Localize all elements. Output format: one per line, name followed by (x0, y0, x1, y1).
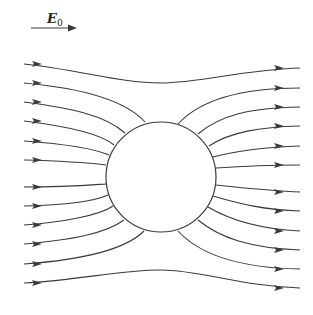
arrowhead-icon (32, 138, 42, 144)
field-line-diagram: E0 (0, 0, 313, 315)
arrowhead-icon (274, 123, 284, 129)
field-line-lower-1 (24, 270, 300, 288)
field-line-right-upper-4 (209, 126, 300, 146)
diagram-canvas: E0 (0, 0, 313, 315)
field-line-right-upper-3 (198, 107, 300, 134)
field-line-right-upper-5 (213, 146, 300, 157)
arrowhead-icon (32, 222, 42, 228)
arrowhead-icon (274, 247, 284, 253)
field-line-upper-2 (24, 83, 145, 122)
conducting-sphere (106, 122, 216, 232)
field-line-lower-5 (24, 195, 108, 206)
field-line-lower-4 (24, 206, 113, 225)
field-line-upper-1 (24, 64, 300, 83)
field-label: E0 (46, 11, 63, 28)
arrowhead-icon (274, 143, 284, 149)
applied-field-indicator: E0 (31, 11, 77, 32)
arrowhead-icon (274, 266, 284, 272)
field-line-right-upper-2 (178, 88, 300, 124)
field-line-right-upper-6 (216, 165, 300, 168)
arrowhead-icon (274, 285, 284, 291)
field-line-upper-3 (24, 102, 125, 133)
field-line-right-lower-5 (213, 196, 300, 211)
arrowhead-icon (274, 189, 284, 195)
field-arrowhead-icon (68, 25, 77, 32)
field-line-right-lower-3 (198, 220, 300, 250)
arrowhead-icon (274, 85, 284, 91)
arrowhead-icon (32, 261, 42, 267)
arrowhead-icon (32, 280, 42, 286)
field-line-upper-5 (24, 141, 109, 155)
arrowhead-icon (274, 208, 284, 214)
arrowhead-icon (274, 65, 284, 71)
field-line-right-lower-6 (216, 185, 300, 192)
arrowhead-icon (274, 104, 284, 110)
